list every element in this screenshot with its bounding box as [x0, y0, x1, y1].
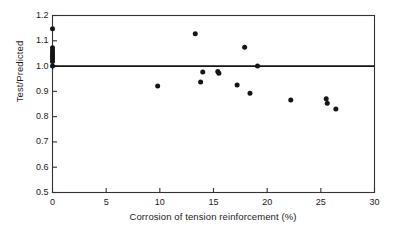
- y-tick-label: 1.2: [23, 11, 49, 20]
- x-tick-label: 15: [202, 198, 226, 207]
- x-tick-label: 20: [255, 198, 279, 207]
- y-tick-label: 1.0: [23, 62, 49, 71]
- x-tick-label: 25: [309, 198, 333, 207]
- y-tick-label: 1.1: [23, 36, 49, 45]
- data-points: [50, 26, 338, 111]
- x-tick-label: 30: [363, 198, 387, 207]
- x-tick-label: 0: [41, 198, 65, 207]
- x-tick-label: 10: [148, 198, 172, 207]
- y-tick-label: 0.7: [23, 137, 49, 146]
- y-tick-label: 0.6: [23, 163, 49, 172]
- y-tick-label: 0.5: [23, 188, 49, 197]
- y-tick-label: 0.9: [23, 87, 49, 96]
- chart-figure: Test/Predicted Corrosion of tension rein…: [0, 0, 393, 236]
- y-tick-label: 0.8: [23, 112, 49, 121]
- x-tick-label: 5: [94, 198, 118, 207]
